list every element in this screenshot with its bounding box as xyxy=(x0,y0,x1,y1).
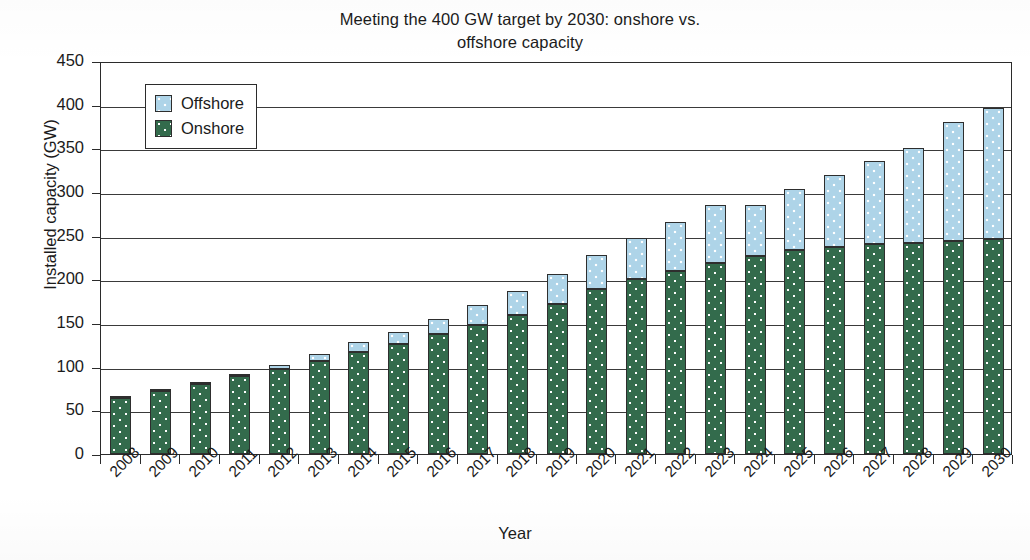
x-tick-2030 xyxy=(972,455,973,464)
bar-segment-offshore-2029[interactable] xyxy=(943,122,964,241)
bar-2026[interactable] xyxy=(824,175,845,454)
x-tick-2026 xyxy=(814,455,815,464)
bar-segment-onshore-2010[interactable] xyxy=(190,384,211,454)
bar-2018[interactable] xyxy=(507,291,528,454)
bar-2015[interactable] xyxy=(388,332,409,454)
offshore-swatch-icon xyxy=(155,95,172,112)
y-tick-label-250: 250 xyxy=(30,226,84,245)
chart-title-line-1: Meeting the 400 GW target by 2030: onsho… xyxy=(190,8,850,31)
gridline-350 xyxy=(101,150,1011,151)
x-tick-2016 xyxy=(417,455,418,464)
x-tick-2011 xyxy=(219,455,220,464)
bar-segment-offshore-2022[interactable] xyxy=(665,222,686,271)
bar-segment-offshore-2014[interactable] xyxy=(348,342,369,352)
x-tick-2020 xyxy=(576,455,577,464)
chart-title: Meeting the 400 GW target by 2030: onsho… xyxy=(190,8,850,54)
bar-2030[interactable] xyxy=(983,108,1004,454)
bar-segment-offshore-2025[interactable] xyxy=(784,189,805,249)
y-tick-label-50: 50 xyxy=(30,400,84,419)
x-tick-2028 xyxy=(893,455,894,464)
bar-2014[interactable] xyxy=(348,342,369,454)
bar-segment-onshore-2019[interactable] xyxy=(547,304,568,454)
x-tick-2014 xyxy=(338,455,339,464)
y-tick-label-300: 300 xyxy=(30,182,84,201)
onshore-swatch-icon xyxy=(155,120,172,137)
bar-segment-onshore-2020[interactable] xyxy=(586,289,607,454)
bar-2013[interactable] xyxy=(309,354,330,454)
bar-segment-offshore-2013[interactable] xyxy=(309,354,330,361)
bar-2016[interactable] xyxy=(428,319,449,454)
bar-segment-offshore-2012[interactable] xyxy=(269,365,290,369)
bar-segment-offshore-2023[interactable] xyxy=(705,205,726,263)
bar-segment-offshore-2018[interactable] xyxy=(507,291,528,315)
bar-segment-onshore-2024[interactable] xyxy=(745,256,766,454)
bar-segment-onshore-2023[interactable] xyxy=(705,263,726,454)
bar-segment-onshore-2018[interactable] xyxy=(507,315,528,454)
bar-segment-offshore-2009[interactable] xyxy=(150,389,171,391)
legend-item-onshore[interactable]: Onshore xyxy=(155,116,244,141)
bar-2027[interactable] xyxy=(864,161,885,454)
y-tick-100 xyxy=(92,368,101,369)
bar-segment-onshore-2030[interactable] xyxy=(983,239,1004,454)
bar-segment-offshore-2019[interactable] xyxy=(547,274,568,304)
bar-segment-onshore-2014[interactable] xyxy=(348,352,369,454)
bar-2022[interactable] xyxy=(665,222,686,454)
bar-2011[interactable] xyxy=(229,374,250,454)
y-tick-label-0: 0 xyxy=(30,444,84,463)
x-axis-title: Year xyxy=(0,524,1030,543)
bar-segment-onshore-2011[interactable] xyxy=(229,376,250,454)
x-tick-2009 xyxy=(140,455,141,464)
bar-2012[interactable] xyxy=(269,365,290,454)
bar-segment-onshore-2028[interactable] xyxy=(903,243,924,454)
bar-2023[interactable] xyxy=(705,205,726,454)
bar-segment-onshore-2015[interactable] xyxy=(388,344,409,454)
bar-segment-onshore-2013[interactable] xyxy=(309,361,330,454)
x-tick-2025 xyxy=(774,455,775,464)
y-tick-label-450: 450 xyxy=(30,51,84,70)
chart-legend: OffshoreOnshore xyxy=(145,84,257,149)
bar-segment-offshore-2026[interactable] xyxy=(824,175,845,247)
x-tick-2019 xyxy=(536,455,537,464)
bar-2019[interactable] xyxy=(547,274,568,454)
x-tick-2010 xyxy=(179,455,180,464)
x-tick-2012 xyxy=(259,455,260,464)
legend-label-onshore: Onshore xyxy=(181,119,244,138)
bar-segment-offshore-2008[interactable] xyxy=(110,396,131,398)
bar-segment-onshore-2027[interactable] xyxy=(864,244,885,454)
legend-item-offshore[interactable]: Offshore xyxy=(155,91,244,116)
bar-segment-onshore-2017[interactable] xyxy=(467,325,488,454)
bar-2028[interactable] xyxy=(903,148,924,454)
bar-segment-offshore-2028[interactable] xyxy=(903,148,924,242)
bar-segment-onshore-2012[interactable] xyxy=(269,369,290,454)
x-tick-end xyxy=(1012,455,1013,464)
bar-segment-offshore-2021[interactable] xyxy=(626,238,647,279)
bar-2010[interactable] xyxy=(190,382,211,454)
bar-segment-onshore-2029[interactable] xyxy=(943,241,964,454)
bar-segment-onshore-2026[interactable] xyxy=(824,247,845,454)
bar-segment-offshore-2016[interactable] xyxy=(428,319,449,335)
bar-segment-offshore-2011[interactable] xyxy=(229,374,250,377)
bar-2021[interactable] xyxy=(626,238,647,454)
bar-2020[interactable] xyxy=(586,255,607,454)
bar-segment-offshore-2020[interactable] xyxy=(586,255,607,289)
bar-segment-onshore-2021[interactable] xyxy=(626,279,647,454)
bar-2029[interactable] xyxy=(943,122,964,454)
bar-2024[interactable] xyxy=(745,205,766,454)
bar-segment-offshore-2027[interactable] xyxy=(864,161,885,244)
x-tick-2021 xyxy=(615,455,616,464)
y-tick-label-100: 100 xyxy=(30,357,84,376)
bar-segment-onshore-2016[interactable] xyxy=(428,334,449,454)
bar-segment-onshore-2025[interactable] xyxy=(784,250,805,454)
y-tick-label-350: 350 xyxy=(30,138,84,157)
chart-container: Meeting the 400 GW target by 2030: onsho… xyxy=(0,0,1030,560)
bar-segment-offshore-2030[interactable] xyxy=(983,108,1004,239)
bar-segment-offshore-2017[interactable] xyxy=(467,305,488,325)
y-tick-150 xyxy=(92,324,101,325)
bar-2025[interactable] xyxy=(784,189,805,454)
bar-segment-offshore-2010[interactable] xyxy=(190,382,211,385)
bar-2017[interactable] xyxy=(467,305,488,454)
y-tick-350 xyxy=(92,149,101,150)
bar-segment-onshore-2022[interactable] xyxy=(665,271,686,454)
bar-segment-offshore-2024[interactable] xyxy=(745,205,766,256)
bar-segment-offshore-2015[interactable] xyxy=(388,332,409,344)
